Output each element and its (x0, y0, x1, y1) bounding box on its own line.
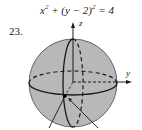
sphere-figure: z y (0, 0, 142, 130)
point (63, 94, 67, 98)
z-arrow-icon (71, 22, 75, 28)
y-arrow-icon (126, 80, 132, 84)
y-label: y (125, 68, 130, 78)
z-label: z (78, 18, 83, 28)
